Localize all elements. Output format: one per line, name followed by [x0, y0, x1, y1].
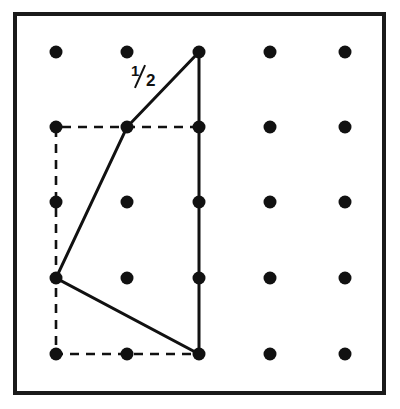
lattice-dot — [264, 46, 277, 59]
lattice-dot — [339, 46, 352, 59]
one-half-label: 1 2 — [131, 63, 161, 92]
lattice-dot — [264, 121, 277, 134]
lattice-dot — [50, 196, 63, 209]
lattice-dot — [193, 272, 206, 285]
lattice-dot — [193, 196, 206, 209]
lattice-dot — [121, 272, 134, 285]
lattice-dot — [339, 196, 352, 209]
lattice-dot — [50, 348, 63, 361]
lattice-dot — [264, 348, 277, 361]
lattice-dot — [264, 196, 277, 209]
figure-root: 1 2 — [0, 0, 400, 409]
lattice-dot — [339, 272, 352, 285]
fraction-denominator: 2 — [146, 72, 155, 89]
one-half-stack: 1 2 — [131, 63, 161, 89]
lattice-dot — [50, 121, 63, 134]
lattice-dot — [264, 272, 277, 285]
dashed-bounding-rectangle — [56, 127, 199, 354]
lattice-dot — [50, 272, 63, 285]
lattice-dot — [193, 348, 206, 361]
lattice-dot — [193, 46, 206, 59]
lattice-dot — [121, 121, 134, 134]
dashed-rectangle-path — [56, 127, 199, 354]
lattice-dot — [121, 196, 134, 209]
lattice-diagram — [0, 0, 400, 409]
lattice-dot — [121, 46, 134, 59]
lattice-dot — [339, 121, 352, 134]
lattice-dot — [50, 46, 63, 59]
lattice-dot — [121, 348, 134, 361]
lattice-dot — [339, 348, 352, 361]
lattice-dot — [193, 121, 206, 134]
